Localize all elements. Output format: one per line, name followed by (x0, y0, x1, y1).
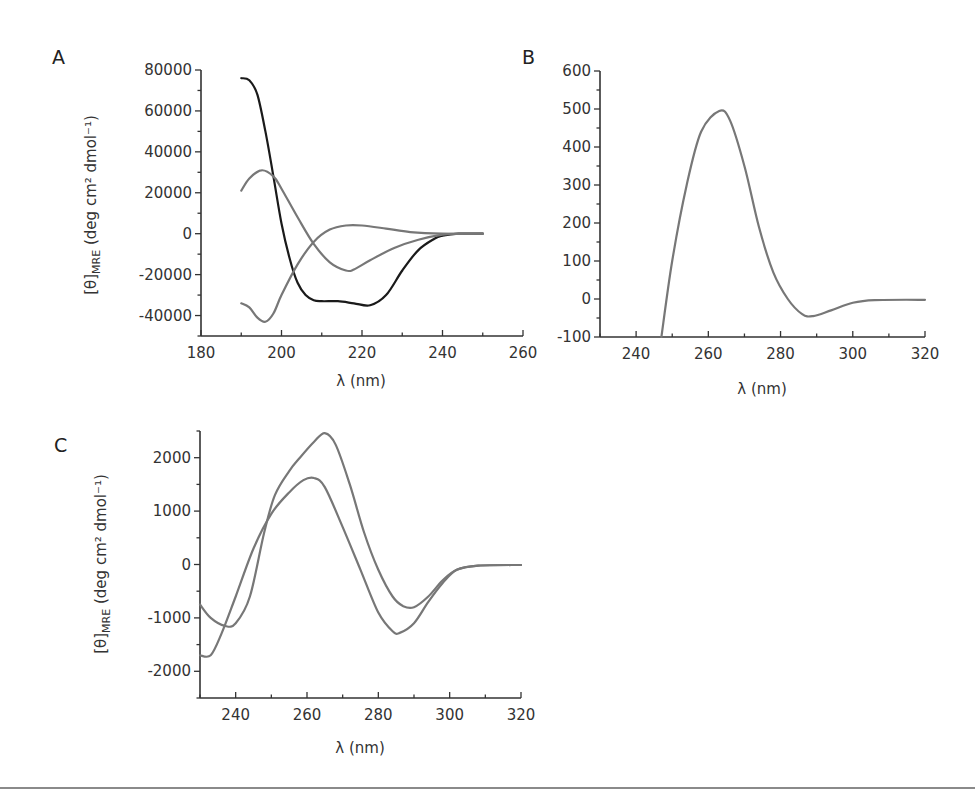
y-tick-label: 600 (562, 62, 591, 80)
panel-c-label: C (54, 434, 67, 456)
panel-c-axes: 240260280300320-2000-1000010002000 (147, 431, 535, 724)
panel-a-x-axis-title: λ (nm) (336, 372, 385, 390)
y-tick-label: 300 (562, 176, 591, 194)
cd-spectra-figure: A [θ]MRE (deg cm² dmol⁻¹) λ (nm) 1802002… (0, 0, 975, 798)
y-tick-label: 100 (562, 252, 591, 270)
panel-c-curves (200, 433, 521, 657)
x-tick-label: 240 (622, 345, 651, 363)
series-line-gray-2 (241, 225, 482, 322)
y-tick-label: -2000 (147, 662, 191, 680)
series-line-black (241, 78, 482, 305)
svg-text:[θ]MRE (deg cm² dmol⁻¹): [θ]MRE (deg cm² dmol⁻¹) (82, 115, 103, 295)
panel-a: A [θ]MRE (deg cm² dmol⁻¹) λ (nm) 1802002… (52, 46, 537, 390)
x-tick-label: 180 (187, 344, 216, 362)
x-tick-label: 260 (694, 345, 723, 363)
x-tick-label: 240 (428, 344, 457, 362)
y-tick-label: 200 (562, 214, 591, 232)
x-tick-label: 280 (766, 345, 795, 363)
panel-c-y-axis-title: [θ]MRE (deg cm² dmol⁻¹) (92, 474, 113, 654)
y-tick-label: 500 (562, 100, 591, 118)
panel-a-axes: 180200220240260-40000-200000200004000060… (139, 61, 537, 362)
panel-a-y-axis-title: [θ]MRE (deg cm² dmol⁻¹) (82, 115, 103, 295)
series-line-gray-upper (200, 433, 521, 627)
x-tick-label: 200 (267, 344, 296, 362)
y-tick-label: 60000 (144, 102, 192, 120)
y-tick-label: -40000 (139, 307, 192, 325)
panel-b-label: B (522, 46, 535, 68)
y-tick-label: 0 (181, 556, 191, 574)
y-tick-label: 40000 (144, 143, 192, 161)
x-tick-label: 280 (364, 706, 393, 724)
y-tick-label: 400 (562, 138, 591, 156)
panel-b-curves (661, 110, 925, 337)
x-tick-label: 320 (507, 706, 536, 724)
x-tick-label: 240 (221, 706, 250, 724)
x-tick-label: 260 (293, 706, 322, 724)
panel-b-axes: 240260280300320-1000100200300400500600 (557, 62, 939, 363)
panel-c: C [θ]MRE (deg cm² dmol⁻¹) λ (nm) 2402602… (54, 431, 535, 757)
series-line-gray-lower (200, 477, 521, 656)
panel-a-label: A (52, 46, 65, 68)
x-tick-label: 300 (435, 706, 464, 724)
y-tick-label: 80000 (144, 61, 192, 79)
x-tick-label: 220 (348, 344, 377, 362)
y-tick-label: 0 (182, 225, 192, 243)
x-tick-label: 300 (838, 345, 867, 363)
y-tick-label: 1000 (153, 502, 191, 520)
series-line-gray-1 (241, 170, 482, 271)
x-tick-label: 320 (911, 345, 940, 363)
panel-b: B λ (nm) 240260280300320-100010020030040… (522, 46, 939, 398)
y-tick-label: 2000 (153, 449, 191, 467)
panel-c-x-axis-title: λ (nm) (335, 739, 384, 757)
bottom-divider (0, 787, 975, 789)
x-tick-label: 260 (509, 344, 538, 362)
y-tick-label: -20000 (139, 266, 192, 284)
y-tick-label: -100 (557, 328, 591, 346)
svg-text:[θ]MRE (deg cm² dmol⁻¹): [θ]MRE (deg cm² dmol⁻¹) (92, 474, 113, 654)
y-tick-label: -1000 (147, 609, 191, 627)
panel-b-x-axis-title: λ (nm) (737, 380, 786, 398)
y-tick-label: 0 (581, 290, 591, 308)
y-tick-label: 20000 (144, 184, 192, 202)
series-line-gray (661, 110, 925, 337)
panel-a-curves (241, 78, 482, 322)
